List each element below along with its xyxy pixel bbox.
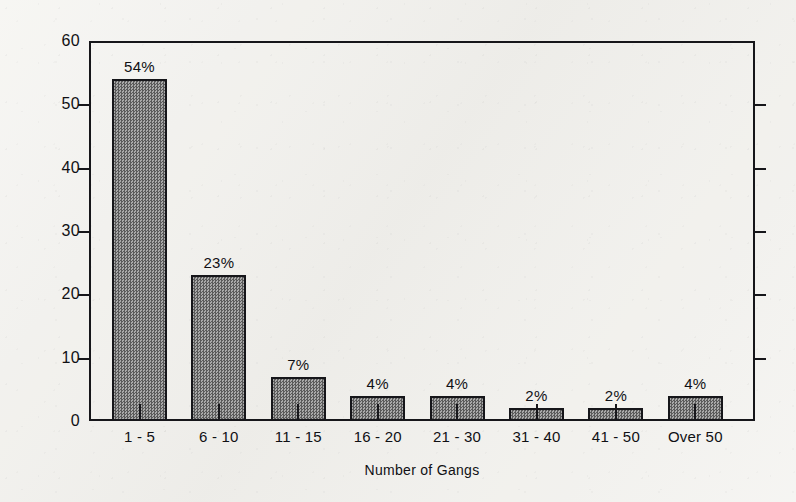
x-axis-tick-mark [297, 404, 299, 419]
x-axis-tick-mark [694, 404, 696, 419]
x-axis-tick-label: 6 - 10 [199, 428, 239, 445]
bar-slot: 7% [271, 41, 326, 421]
bar-slot: 2% [509, 41, 564, 421]
bar-slot: 4% [430, 41, 485, 421]
bar[interactable] [350, 396, 405, 421]
y-axis-tick-mark-right [755, 231, 766, 233]
bar-slot: 23% [191, 41, 246, 421]
chart-page: 0102030405060 54%23%7%4%4%2%2%4% 1 - 56 … [0, 0, 796, 502]
y-axis-tick-label: 40 [40, 160, 80, 176]
y-axis-tick-label: 60 [40, 33, 80, 49]
y-axis-tick-mark-right [755, 104, 766, 106]
bar[interactable] [271, 377, 326, 421]
y-axis-tick-mark-right [755, 168, 766, 170]
y-axis-tick-label: 50 [40, 96, 80, 112]
bar-slot: 2% [588, 41, 643, 421]
x-axis-tick-mark [218, 404, 220, 419]
x-axis-tick-label: 11 - 15 [275, 428, 322, 445]
y-axis-tick-mark [78, 168, 89, 170]
x-axis-tick-label: 41 - 50 [592, 428, 640, 445]
bar-value-label: 2% [525, 388, 547, 403]
x-axis-tick-mark [377, 404, 379, 419]
x-axis-tick-label: 1 - 5 [124, 428, 155, 445]
y-axis-tick-mark-right [755, 358, 766, 360]
bars-layer: 54%23%7%4%4%2%2%4% [91, 41, 753, 421]
bar[interactable] [668, 396, 723, 421]
bar[interactable] [509, 408, 564, 421]
x-axis-tick-mark [139, 404, 141, 419]
bar-slot: 4% [668, 41, 723, 421]
x-axis-tick-mark [536, 404, 538, 419]
bar[interactable] [588, 408, 643, 421]
x-axis-title: Number of Gangs [365, 462, 480, 478]
x-axis-tick-label: 21 - 30 [433, 428, 481, 445]
y-axis-tick-label: 10 [40, 350, 80, 366]
y-axis-tick-mark [78, 358, 89, 360]
bar[interactable] [191, 275, 246, 421]
y-axis-tick-mark [78, 104, 89, 106]
x-axis-tick-label: 31 - 40 [512, 428, 560, 445]
y-axis-tick-label: 30 [40, 223, 80, 239]
bar-value-label: 4% [684, 376, 706, 391]
x-axis-tick-mark [456, 404, 458, 419]
y-axis-tick-mark [78, 231, 89, 233]
y-axis-tick-mark [78, 294, 89, 296]
bar-slot: 4% [350, 41, 405, 421]
bar-value-label: 4% [446, 376, 468, 391]
x-axis-tick-label: Over 50 [668, 428, 723, 445]
y-axis-tick-mark-right [755, 294, 766, 296]
y-axis-tick-label: 0 [40, 413, 80, 429]
bar-value-label: 7% [287, 357, 309, 372]
bar-slot: 54% [112, 41, 167, 421]
bar-value-label: 23% [203, 255, 234, 270]
bar-value-label: 54% [124, 59, 155, 74]
y-axis-tick-label: 20 [40, 286, 80, 302]
x-axis-tick-labels: 1 - 56 - 1011 - 1516 - 2021 - 3031 - 404… [91, 428, 753, 454]
bar-value-label: 2% [605, 388, 627, 403]
bar[interactable] [112, 79, 167, 421]
bar-value-label: 4% [367, 376, 389, 391]
x-axis-tick-mark [615, 404, 617, 419]
bar[interactable] [430, 396, 485, 421]
x-axis-tick-label: 16 - 20 [354, 428, 402, 445]
y-axis-tick-labels: 0102030405060 [30, 41, 80, 421]
